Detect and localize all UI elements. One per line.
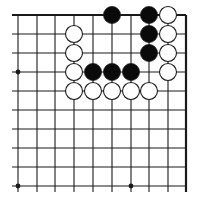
- black-stone: [123, 64, 140, 81]
- black-stone: [104, 64, 121, 81]
- star-point: [16, 184, 21, 189]
- white-stone: [141, 83, 158, 100]
- white-stone: [66, 45, 83, 62]
- white-stone: [160, 7, 177, 24]
- white-stone: [123, 83, 140, 100]
- white-stone: [160, 26, 177, 43]
- black-stone: [141, 45, 158, 62]
- black-stone: [104, 7, 121, 24]
- white-stone: [66, 64, 83, 81]
- black-stone: [141, 7, 158, 24]
- go-board: [0, 0, 198, 208]
- black-stone: [141, 26, 158, 43]
- star-point: [129, 184, 134, 189]
- white-stone: [66, 26, 83, 43]
- board-grid: [12, 15, 186, 192]
- star-point: [16, 70, 21, 75]
- black-stone: [85, 64, 102, 81]
- white-stone: [104, 83, 121, 100]
- white-stone: [85, 83, 102, 100]
- white-stone: [160, 64, 177, 81]
- white-stone: [160, 45, 177, 62]
- white-stone: [66, 83, 83, 100]
